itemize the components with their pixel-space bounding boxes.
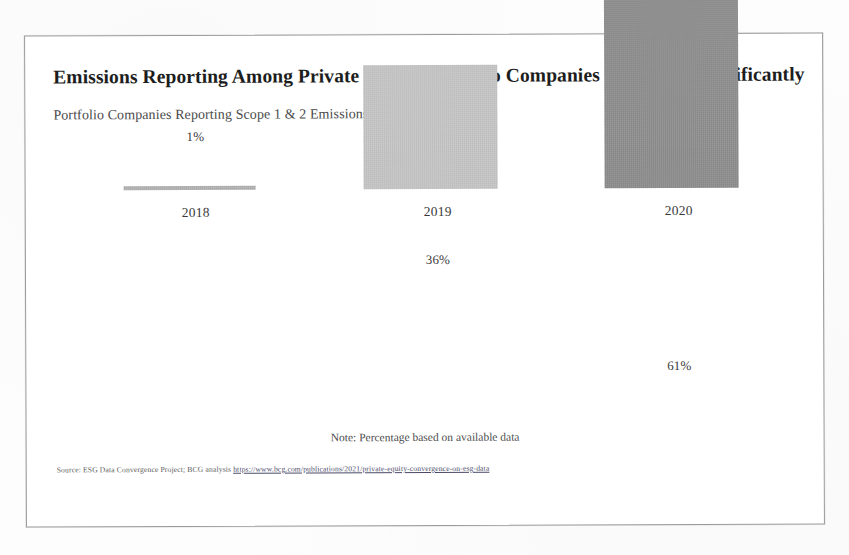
slide-content: Emissions Reporting Among Private Equity… [25, 33, 824, 526]
bar-2018[interactable] [124, 186, 256, 191]
bar-chart-plot-area: 1% 2018 36% 2019 61% 2020 [25, 33, 824, 526]
bar-category-label-2018: 2018 [96, 204, 296, 221]
bar-group-2018: 1% 2018 [95, 105, 297, 526]
bar-category-label-2020: 2020 [579, 203, 779, 220]
bar-2020[interactable] [604, 0, 739, 188]
bar-value-label-2020: 61% [579, 358, 779, 375]
bar-value-label-2019: 36% [338, 252, 538, 269]
slide-frame: Emissions Reporting Among Private Equity… [24, 32, 825, 527]
source-prefix-text: Source: ESG Data Convergence Project; BC… [57, 465, 233, 475]
bar-group-2019: 36% 2019 [337, 105, 539, 526]
bar-category-label-2019: 2019 [338, 204, 538, 221]
bar-group-2020: 61% 2020 [578, 104, 780, 525]
scanned-page-background: Emissions Reporting Among Private Equity… [0, 0, 849, 555]
bar-value-label-2018: 1% [95, 128, 295, 145]
source-link[interactable]: https://www.bcg.com/publications/2021/pr… [233, 464, 489, 474]
source-line: Source: ESG Data Convergence Project; BC… [57, 464, 490, 475]
bar-2019[interactable] [363, 65, 497, 190]
